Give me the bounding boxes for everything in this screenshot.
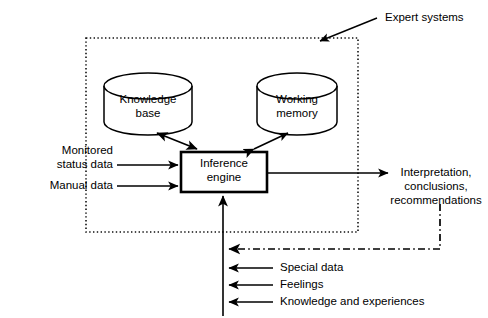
monitored-status-data-label-line1: Monitored bbox=[0, 144, 113, 158]
monitored-status-data-label-line2: status data bbox=[0, 158, 113, 172]
feelings-label: Feelings bbox=[280, 278, 323, 292]
manual-data-label: Manual data bbox=[0, 179, 113, 193]
feedback-path bbox=[229, 204, 440, 249]
inference-engine-label-line1: Inference bbox=[181, 157, 267, 171]
expert-system-boundary bbox=[86, 38, 358, 232]
inference-engine-label-line2: engine bbox=[181, 171, 267, 185]
knowledge-and-experiences-label: Knowledge and experiences bbox=[280, 295, 425, 309]
knowledge-base-label-line1: Knowledge bbox=[104, 93, 192, 107]
wm-engine-link bbox=[254, 133, 288, 149]
special-data-label: Special data bbox=[280, 261, 343, 275]
interpretation-output-label-line1: Interpretation, bbox=[386, 166, 486, 180]
expert-systems-diagram: Expert systems Knowledge base Working me… bbox=[0, 0, 488, 318]
working-memory-label-line1: Working bbox=[257, 93, 337, 107]
knowledge-base-label-line2: base bbox=[104, 107, 192, 121]
expert-systems-label: Expert systems bbox=[385, 11, 464, 25]
working-memory-label-line2: memory bbox=[257, 107, 337, 121]
kb-engine-link bbox=[157, 133, 197, 149]
interpretation-output-label-line3: recommendations bbox=[386, 194, 486, 208]
interpretation-output-label-line2: conclusions, bbox=[386, 180, 486, 194]
